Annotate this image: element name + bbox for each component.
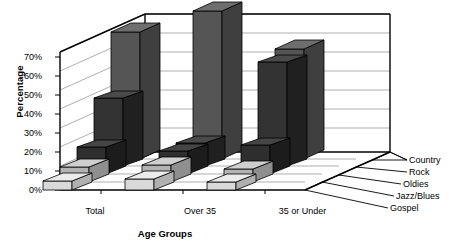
bar-over35-country <box>193 2 242 159</box>
chart-container: Percentage Age Groups 70% 60% 50% 40% 30… <box>0 0 455 248</box>
chart-plot <box>0 0 455 248</box>
